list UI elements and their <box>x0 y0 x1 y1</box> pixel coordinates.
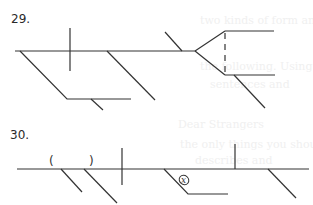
diagram-29 <box>15 28 275 110</box>
lower-branch-modifier <box>234 75 265 108</box>
modifier-slant-3 <box>268 169 296 198</box>
prepositional-phrase <box>164 169 228 194</box>
diagram-canvas: ( ) x <box>0 0 313 205</box>
modifier-slant <box>107 51 155 100</box>
fork-upper <box>195 31 225 51</box>
open-parenthesis: ( <box>49 154 54 168</box>
modifier-slant-2 <box>84 169 117 203</box>
close-parenthesis: ) <box>89 154 94 168</box>
circled-marker-label: x <box>181 175 186 185</box>
fork-lower <box>195 51 225 75</box>
object-modifier-slant <box>91 99 103 110</box>
diagram-30: ( ) x <box>17 144 309 203</box>
modifier-slant-small <box>165 32 182 51</box>
modifier-slant-1 <box>61 169 82 192</box>
